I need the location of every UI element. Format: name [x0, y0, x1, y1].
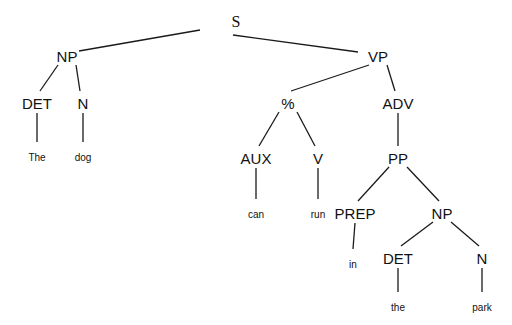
- node-np1: NP: [57, 48, 78, 65]
- node-v: V: [313, 150, 323, 167]
- edge-np2-to-n2: [451, 222, 479, 246]
- node-det2: DET: [383, 250, 413, 267]
- node-s: S: [232, 13, 241, 30]
- word-leaf-w_the1: The: [28, 152, 46, 163]
- edge-s-to-vp: [233, 35, 358, 52]
- node-det1: DET: [22, 95, 52, 112]
- node-n1: N: [78, 95, 89, 112]
- edge-vp-to-adv: [387, 65, 395, 91]
- node-vp: VP: [368, 48, 388, 65]
- word-leaf-w_park: park: [472, 302, 492, 313]
- edge-s-to-np1: [79, 30, 200, 51]
- word-leaf-w_the2: the: [391, 302, 405, 313]
- tree-labels: SNPVPDETNThedog%ADVAUXVcanrunPPPREPNPinD…: [22, 13, 493, 313]
- edge-pp-to-prep: [358, 167, 389, 201]
- edge-pp-to-np2: [407, 167, 439, 201]
- node-pp: PP: [388, 150, 408, 167]
- node-prep: PREP: [335, 205, 376, 222]
- syntax-tree: SNPVPDETNThedog%ADVAUXVcanrunPPPREPNPinD…: [0, 0, 512, 325]
- word-leaf-w_dog: dog: [75, 152, 92, 163]
- word-leaf-w_can: can: [248, 209, 264, 220]
- node-pct: %: [281, 95, 294, 112]
- word-leaf-w_in: in: [349, 259, 357, 270]
- node-aux: AUX: [241, 150, 272, 167]
- node-np2: NP: [432, 205, 453, 222]
- edge-pct-to-aux: [259, 112, 279, 146]
- node-n2: N: [477, 250, 488, 267]
- edge-vp-to-pct: [291, 65, 369, 91]
- edge-np1-to-n1: [76, 65, 80, 91]
- node-adv: ADV: [383, 95, 414, 112]
- word-leaf-w_run: run: [311, 209, 325, 220]
- edge-prep-to-w_in: [353, 223, 355, 249]
- edge-np2-to-det2: [401, 222, 433, 246]
- edge-pct-to-v: [297, 112, 315, 146]
- edge-np1-to-det1: [40, 65, 58, 91]
